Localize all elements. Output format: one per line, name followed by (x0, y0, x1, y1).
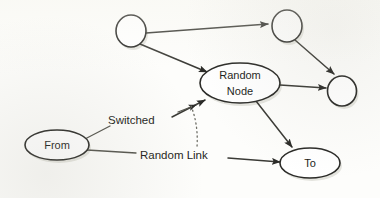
node-random-node-label-line1: Random (219, 69, 261, 81)
edge-label-switched: Switched (108, 114, 155, 126)
edge-topleft-to-randomnode (140, 44, 207, 72)
node-circle-right[interactable] (328, 76, 357, 106)
edge-randomnode-to-right (280, 85, 326, 88)
node-random-node-label-line2: Node (227, 85, 253, 97)
diagram-svg: Random Node From To Switched Random Link (0, 0, 380, 198)
edge-annotation-dotted (191, 106, 197, 147)
node-from-label: From (44, 139, 70, 151)
edge-topright-to-right (295, 40, 334, 74)
node-to-label: To (304, 157, 316, 169)
edge-randomlink-to-to (228, 158, 280, 162)
node-circle-top-left[interactable] (116, 15, 146, 47)
node-circle-top-right[interactable] (272, 10, 302, 42)
edge-label-random-link: Random Link (140, 149, 208, 161)
diagram-canvas: Random Node From To Switched Random Link (0, 0, 380, 198)
edge-from-stub-randomlink (87, 150, 136, 153)
edge-randomnode-to-to (256, 101, 292, 147)
edge-from-stub-switched (83, 126, 110, 140)
edge-topleft-to-topright (146, 24, 268, 33)
